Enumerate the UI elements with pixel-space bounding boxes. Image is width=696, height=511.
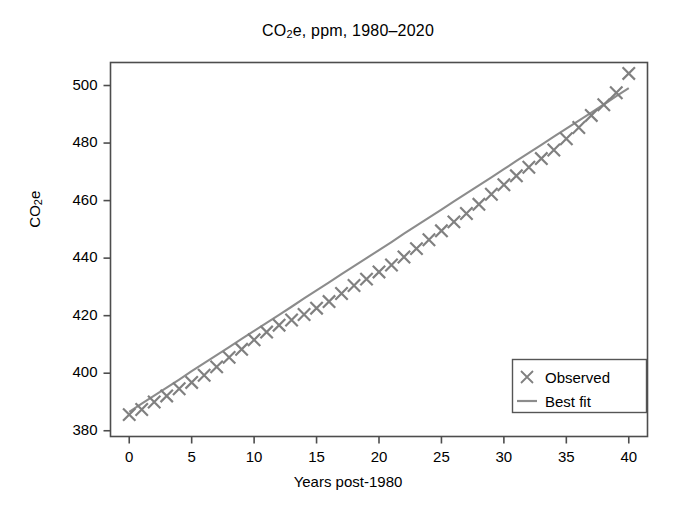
- observed-point: [498, 179, 510, 191]
- legend-label: Best fit: [545, 393, 592, 410]
- y-axis-label-pre: CO: [26, 205, 43, 228]
- observed-point: [448, 216, 460, 228]
- observed-point: [523, 161, 535, 173]
- x-tick-label: 40: [609, 448, 649, 465]
- observed-point: [435, 225, 447, 237]
- plot-area: ObservedBest fit: [0, 0, 696, 511]
- x-tick-label: 35: [546, 448, 586, 465]
- observed-point: [235, 343, 247, 355]
- observed-point: [185, 376, 197, 388]
- observed-point: [535, 152, 547, 164]
- x-tick-label: 15: [297, 448, 337, 465]
- observed-point: [510, 170, 522, 182]
- observed-point: [273, 319, 285, 331]
- observed-point: [460, 207, 472, 219]
- y-axis-label-post: e: [26, 191, 43, 199]
- y-tick-label: 480: [52, 133, 98, 150]
- y-tick-label: 440: [52, 248, 98, 265]
- observed-point: [223, 351, 235, 363]
- observed-point: [298, 308, 310, 320]
- x-tick-marks: [129, 437, 629, 444]
- x-tick-label: 25: [421, 448, 461, 465]
- observed-point: [285, 314, 297, 326]
- y-tick-label: 380: [52, 421, 98, 438]
- observed-point: [623, 67, 635, 79]
- x-tick-label: 10: [234, 448, 274, 465]
- observed-point: [323, 295, 335, 307]
- x-tick-label: 0: [109, 448, 149, 465]
- observed-point: [560, 133, 572, 145]
- x-tick-label: 5: [172, 448, 212, 465]
- chart-title: CO2e, ppm, 1980–2020: [0, 22, 696, 40]
- observed-point: [160, 390, 172, 402]
- observed-point: [310, 302, 322, 314]
- y-tick-label: 500: [52, 76, 98, 93]
- observed-point: [335, 287, 347, 299]
- legend-label: Observed: [545, 369, 610, 386]
- chart-title-post: e, ppm, 1980–2020: [293, 22, 434, 39]
- x-tick-label: 20: [359, 448, 399, 465]
- chart-figure: CO2e, ppm, 1980–2020 CO2e Years post-198…: [0, 0, 696, 511]
- chart-legend: ObservedBest fit: [513, 360, 647, 413]
- x-axis-label: Years post-1980: [0, 473, 696, 490]
- observed-point: [410, 242, 422, 254]
- y-tick-marks: [104, 86, 111, 431]
- observed-point: [485, 188, 497, 200]
- observed-point: [473, 198, 485, 210]
- observed-point: [260, 326, 272, 338]
- observed-point: [136, 403, 148, 415]
- observed-point: [423, 234, 435, 246]
- y-tick-label: 400: [52, 363, 98, 380]
- observed-point: [373, 266, 385, 278]
- observed-point: [148, 396, 160, 408]
- observed-point: [573, 121, 585, 133]
- observed-point: [385, 259, 397, 271]
- x-tick-label: 30: [484, 448, 524, 465]
- observed-point: [360, 273, 372, 285]
- y-axis-label: CO2e: [26, 129, 44, 289]
- observed-point: [248, 334, 260, 346]
- observed-point: [348, 279, 360, 291]
- y-tick-label: 420: [52, 306, 98, 323]
- y-axis-label-subscript: 2: [32, 199, 44, 205]
- observed-point: [210, 361, 222, 373]
- y-tick-label: 460: [52, 191, 98, 208]
- observed-point: [598, 99, 610, 111]
- observed-point: [123, 408, 135, 420]
- observed-point: [198, 369, 210, 381]
- observed-point: [398, 251, 410, 263]
- observed-point: [173, 383, 185, 395]
- observed-point: [548, 144, 560, 156]
- chart-title-pre: CO: [262, 22, 286, 39]
